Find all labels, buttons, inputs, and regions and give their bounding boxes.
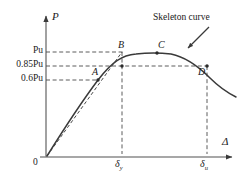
secant-line (47, 52, 122, 156)
point-marker-d (205, 64, 208, 67)
y-tick-06pu: 0.6Pu (0, 74, 43, 84)
x-axis-label: Δ (222, 136, 228, 147)
skeleton-curve-annotation: Skeleton curve (153, 13, 210, 23)
x-tick-delta-y: δy (115, 159, 123, 172)
x-tick-delta-u-sub: u (205, 164, 208, 171)
figure-container: P Δ 0 Pu 0.85Pu 0.6Pu δy δu A B C D Skel… (0, 0, 248, 178)
y-axis-label: P (52, 11, 59, 22)
point-marker-a (96, 78, 99, 81)
annotation-arrow-icon (188, 27, 209, 48)
y-tick-085pu: 0.85Pu (0, 60, 43, 70)
point-label-d: D (198, 67, 205, 77)
point-marker-c (155, 51, 158, 54)
x-tick-delta-y-sub: y (120, 164, 123, 171)
point-label-b: B (118, 40, 124, 50)
point-label-a: A (92, 67, 98, 77)
x-tick-delta-u: δu (200, 159, 208, 172)
point-marker-b (120, 64, 123, 67)
origin-label: 0 (33, 158, 38, 168)
skeleton-curve-path (47, 53, 236, 156)
y-tick-pu: Pu (0, 46, 43, 56)
point-label-c: C (158, 40, 165, 50)
skeleton-curve-figure (0, 0, 248, 178)
